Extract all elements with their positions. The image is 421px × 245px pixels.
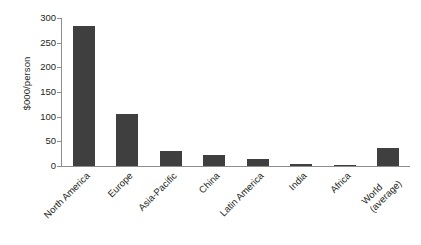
x-tick-label: Africa (328, 170, 353, 195)
bar[interactable] (203, 155, 225, 166)
y-tick-label: 0 (30, 161, 56, 171)
y-tick-mark (57, 166, 62, 167)
x-label-slot: India (280, 168, 324, 245)
x-tick-label: World (average) (359, 170, 403, 214)
bar[interactable] (290, 164, 312, 166)
bar-slot (193, 18, 237, 166)
x-tick-label: Europe (106, 170, 135, 199)
y-tick-mark (57, 141, 62, 142)
y-tick-mark (57, 18, 62, 19)
x-label-slot: Asia-Pacific (149, 168, 193, 245)
x-label-slot: Latin America (236, 168, 280, 245)
y-tick-label: 250 (30, 38, 56, 48)
bar-slot (106, 18, 150, 166)
x-label-slot: Africa (323, 168, 367, 245)
bar[interactable] (247, 159, 269, 166)
y-tick-mark (57, 92, 62, 93)
x-label-slot: North America (62, 168, 106, 245)
x-label-slot: World (average) (367, 168, 411, 245)
y-tick-mark (57, 67, 62, 68)
x-tick-label: China (197, 170, 222, 195)
plot-area (62, 18, 410, 166)
y-tick-label: 300 (30, 13, 56, 23)
bar[interactable] (160, 151, 182, 166)
bar[interactable] (377, 148, 399, 166)
bar-slot (367, 18, 411, 166)
x-axis-tick-labels: North AmericaEuropeAsia-PacificChinaLati… (62, 168, 410, 245)
bar-slot (323, 18, 367, 166)
x-tick-label: India (287, 170, 309, 192)
y-tick-label: 50 (30, 136, 56, 146)
y-tick-label: 200 (30, 62, 56, 72)
bar-slot (62, 18, 106, 166)
bar[interactable] (334, 165, 356, 166)
y-tick-label: 150 (30, 87, 56, 97)
y-tick-label: 100 (30, 112, 56, 122)
bar-slot (149, 18, 193, 166)
bar[interactable] (116, 114, 138, 166)
x-axis-line (61, 166, 410, 167)
bar[interactable] (73, 26, 95, 166)
bar-slot (236, 18, 280, 166)
y-tick-mark (57, 43, 62, 44)
y-tick-mark (57, 117, 62, 118)
bar-chart: $000/person 050100150200250300 North Ame… (0, 0, 421, 245)
bar-slot (280, 18, 324, 166)
